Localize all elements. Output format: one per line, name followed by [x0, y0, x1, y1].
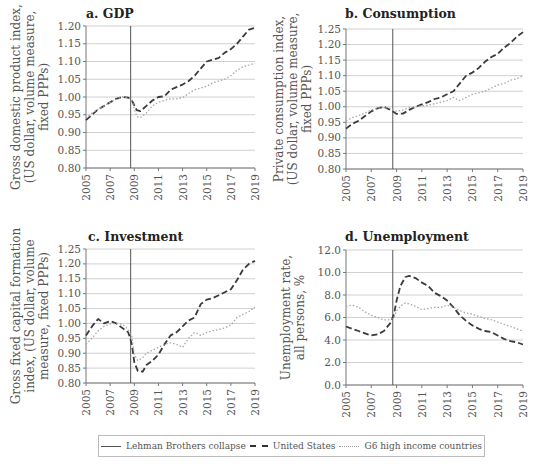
y-axis-label: (US dollar, volume measure, — [286, 13, 300, 186]
x-tick-label: 2019 — [517, 391, 529, 418]
y-tick-label: 0.95 — [58, 332, 81, 344]
y-axis-label: all persons, % — [293, 275, 307, 360]
x-tick-label: 2019 — [517, 175, 529, 202]
us-series-line — [86, 28, 255, 120]
g6-series-line — [86, 63, 255, 118]
x-tick-label: 2013 — [177, 174, 189, 201]
legend-item-us: United States — [250, 441, 336, 451]
y-axis-label: measure, fixed PPPs) — [37, 252, 51, 380]
x-tick-label: 2017 — [225, 389, 237, 416]
x-tick-label: 2005 — [80, 174, 92, 201]
legend-label: United States — [273, 441, 336, 451]
y-tick-label: 4.0 — [324, 334, 341, 346]
y-tick-label: 0.95 — [318, 116, 341, 128]
us-series-line — [346, 32, 523, 129]
y-tick-label: 1.00 — [318, 100, 341, 112]
y-tick-label: 1.25 — [58, 243, 81, 255]
y-tick-label: 1.20 — [58, 257, 81, 269]
y-tick-label: 1.05 — [58, 302, 81, 314]
y-axis-label: Gross fixed capital formation — [9, 227, 23, 404]
y-axis-label: Gross domestic product index, — [9, 4, 23, 190]
y-tick-label: 1.15 — [318, 54, 341, 66]
x-tick-label: 2019 — [249, 389, 261, 416]
y-axis-label: (US dollar, volume measure, — [23, 11, 37, 184]
x-tick-label: 2015 — [466, 391, 478, 418]
panel-b: b. Consumption0.800.850.900.951.001.051.… — [272, 6, 529, 202]
x-tick-label: 2005 — [80, 389, 92, 416]
x-tick-label: 2013 — [441, 391, 453, 418]
x-tick-label: 2007 — [365, 175, 377, 202]
panel-title: d. Unemployment — [345, 229, 469, 244]
y-tick-label: 1.10 — [318, 69, 341, 81]
x-tick-label: 2011 — [152, 174, 164, 201]
y-tick-label: 2.0 — [324, 356, 341, 368]
x-tick-label: 2019 — [249, 174, 261, 201]
legend-item-g6: G6 high income countries — [339, 441, 482, 451]
us-series-line — [346, 276, 523, 345]
y-axis-label: fixed PPPs) — [300, 65, 314, 133]
x-tick-label: 2005 — [340, 175, 352, 202]
x-tick-label: 2009 — [391, 175, 403, 202]
x-tick-label: 2013 — [441, 175, 453, 202]
y-tick-label: 1.20 — [58, 20, 81, 32]
y-tick-label: 0.85 — [58, 362, 81, 374]
x-tick-label: 2015 — [466, 175, 478, 202]
x-tick-label: 2017 — [492, 175, 504, 202]
x-tick-label: 2013 — [177, 389, 189, 416]
y-tick-label: 0.0 — [324, 379, 341, 391]
panel-a: a. GDP0.800.850.900.951.001.051.101.151.… — [9, 4, 261, 201]
panel-c: c. Investment0.800.850.900.951.001.051.1… — [9, 227, 261, 415]
x-tick-label: 2009 — [391, 391, 403, 418]
x-tick-label: 2007 — [365, 391, 377, 418]
y-tick-label: 10.0 — [318, 266, 341, 278]
y-tick-label: 1.10 — [58, 287, 81, 299]
y-tick-label: 1.20 — [318, 38, 341, 50]
g6-series-line — [86, 307, 255, 361]
x-tick-label: 2007 — [104, 174, 116, 201]
y-tick-label: 1.15 — [58, 37, 81, 49]
y-tick-label: 0.80 — [318, 163, 341, 175]
x-tick-label: 2011 — [416, 391, 428, 418]
y-tick-label: 1.15 — [58, 272, 81, 284]
y-tick-label: 1.05 — [58, 73, 81, 85]
y-tick-label: 0.90 — [58, 126, 81, 138]
x-tick-label: 2017 — [225, 174, 237, 201]
dotted-line-swatch-icon — [339, 446, 359, 447]
y-tick-label: 0.80 — [58, 377, 81, 389]
legend-item-lehman: Lehman Brothers collapse — [101, 441, 246, 451]
x-tick-label: 2009 — [128, 389, 140, 416]
dashed-line-swatch-icon — [250, 445, 268, 447]
y-tick-label: 0.85 — [58, 144, 81, 156]
x-tick-label: 2007 — [104, 389, 116, 416]
panel-title: c. Investment — [88, 229, 184, 244]
y-tick-label: 0.85 — [318, 147, 341, 159]
x-tick-label: 2017 — [492, 391, 504, 418]
y-tick-label: 0.90 — [58, 347, 81, 359]
y-tick-label: 1.00 — [58, 317, 81, 329]
y-axis-label: Unemployment rate, — [279, 255, 293, 380]
y-tick-label: 0.80 — [58, 162, 81, 174]
x-tick-label: 2015 — [201, 389, 213, 416]
y-tick-label: 1.10 — [58, 55, 81, 67]
y-axis-label: fixed PPPs) — [37, 63, 51, 131]
x-tick-label: 2005 — [340, 391, 352, 418]
y-tick-label: 1.05 — [318, 85, 341, 97]
chart-canvas: a. GDP0.800.850.900.951.001.051.101.151.… — [0, 0, 538, 464]
panel-title: b. Consumption — [345, 6, 456, 21]
y-axis-label: index, (US dollar, volume — [23, 239, 37, 392]
y-tick-label: 1.00 — [58, 91, 81, 103]
legend-label: Lehman Brothers collapse — [126, 441, 246, 451]
x-tick-label: 2011 — [152, 389, 164, 416]
solid-line-swatch-icon — [101, 446, 121, 447]
y-axis-label: Private consumption index, — [272, 16, 286, 182]
y-tick-label: 6.0 — [324, 311, 341, 323]
y-tick-label: 1.25 — [318, 23, 341, 35]
panel-title: a. GDP — [86, 6, 134, 21]
y-tick-label: 8.0 — [324, 289, 341, 301]
g6-series-line — [346, 303, 523, 331]
x-tick-label: 2015 — [201, 174, 213, 201]
us-series-line — [86, 261, 255, 372]
y-tick-label: 0.90 — [318, 131, 341, 143]
x-tick-label: 2011 — [416, 175, 428, 202]
y-tick-label: 12.0 — [318, 244, 341, 256]
